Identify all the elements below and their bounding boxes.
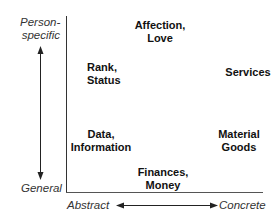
- label-line: Information: [66, 141, 136, 154]
- label-line: specific: [20, 29, 60, 42]
- horizontal-double-arrow: [116, 203, 218, 209]
- resource-material-goods: Material Goods: [210, 128, 268, 154]
- resource-rank-status: Rank, Status: [87, 61, 121, 87]
- label-line: Goods: [210, 141, 268, 154]
- label-line: Data,: [66, 128, 136, 141]
- x-axis-left-label: Abstract: [67, 199, 109, 212]
- resource-affection-love: Affection, Love: [128, 19, 192, 45]
- label-line: Person-: [20, 16, 60, 29]
- label-line: Finances,: [134, 166, 192, 179]
- label-line: Money: [134, 179, 192, 192]
- y-axis-top-label: Person- specific: [20, 16, 60, 42]
- resource-data-information: Data, Information: [66, 128, 136, 154]
- label-line: Services: [218, 66, 278, 79]
- label-line: Love: [128, 32, 192, 45]
- resource-services: Services: [218, 66, 278, 79]
- vertical-double-arrow: [38, 46, 44, 180]
- x-axis-right-label: Concrete: [219, 199, 266, 212]
- label-line: Status: [87, 74, 121, 87]
- resource-finances-money: Finances, Money: [134, 166, 192, 192]
- label-line: Rank,: [87, 61, 121, 74]
- label-line: Affection,: [128, 19, 192, 32]
- y-axis-bottom-label: General: [21, 182, 62, 195]
- label-line: Material: [210, 128, 268, 141]
